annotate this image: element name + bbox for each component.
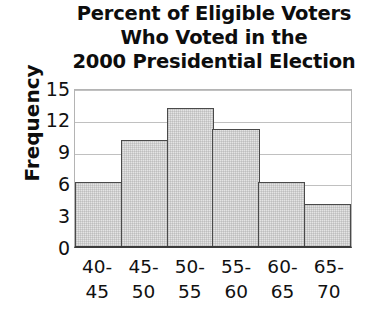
histogram-bar [212,129,259,246]
x-tick-label: 65-70 [306,254,352,310]
x-tick-label-line: 45- [120,254,166,279]
x-tick-label-line: 50- [167,254,213,279]
x-tick-label: 60-65 [259,254,305,310]
x-tick-label-line: 65- [306,254,352,279]
chart-title-line-3: 2000 Presidential Election [58,50,370,74]
x-tick-label: 40-45 [74,254,120,310]
y-tick-label: 6 [6,175,70,194]
x-tick-label-line: 55 [167,279,213,304]
x-tick-label-line: 50 [120,279,166,304]
x-tick-label-line: 65 [259,279,305,304]
x-tick-label-line: 60 [213,279,259,304]
x-tick-label-line: 45 [74,279,120,304]
x-tick-label: 55-60 [213,254,259,310]
x-axis-tick-labels: 40-4545-5050-5555-6060-6565-70 [74,254,352,310]
histogram-bar [304,204,351,246]
histogram-bar [258,182,305,246]
histogram-bar [167,108,214,246]
y-axis-tick-labels: 15 12 9 6 3 0 [0,89,70,248]
plot-area [74,89,352,248]
x-tick-label: 50-55 [167,254,213,310]
histogram-bar [75,182,122,246]
chart-title-line-2: Who Voted in the [58,26,370,50]
chart-title: Percent of Eligible Voters Who Voted in … [58,2,370,74]
x-tick-label-line: 55- [213,254,259,279]
x-tick-label-line: 60- [259,254,305,279]
cut-off-caption [52,311,352,319]
y-tick-label: 3 [6,207,70,226]
x-tick-label-line: 70 [306,279,352,304]
y-tick-label: 15 [6,80,70,99]
x-tick-label-line: 40- [74,254,120,279]
histogram-bar [121,140,168,246]
histogram-bars [75,90,351,246]
y-tick-label: 9 [6,143,70,162]
histogram-figure: Percent of Eligible Voters Who Voted in … [0,0,375,319]
x-tick-label: 45-50 [120,254,166,310]
chart-title-line-1: Percent of Eligible Voters [58,2,370,26]
y-tick-label: 12 [6,111,70,130]
y-tick-label: 0 [6,239,70,258]
